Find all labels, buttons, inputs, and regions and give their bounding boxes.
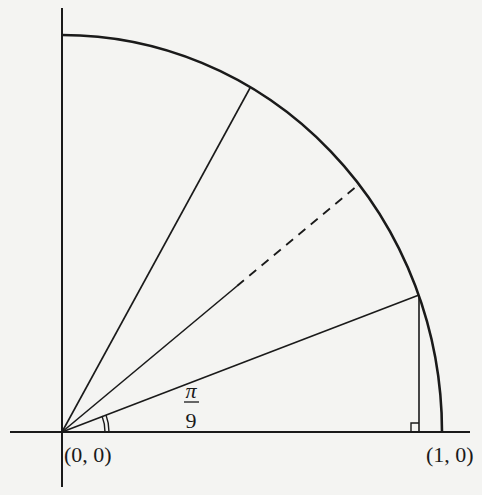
unit-point-label: (1, 0) (426, 442, 474, 467)
angle-label-denominator: 9 (186, 408, 197, 433)
unit-circle-arc (62, 35, 442, 432)
angle-marker-arc-outer (106, 415, 109, 432)
origin-label: (0, 0) (64, 442, 112, 467)
unit-circle-diagram: π 9 (0, 0) (1, 0) (0, 0, 482, 495)
ray-pi-over-9 (62, 295, 419, 432)
angle-label-numerator: π (185, 378, 197, 403)
ray-pi-over-3 (62, 88, 250, 432)
angle-marker-arc-inner (102, 416, 105, 432)
right-angle-marker (411, 423, 419, 432)
